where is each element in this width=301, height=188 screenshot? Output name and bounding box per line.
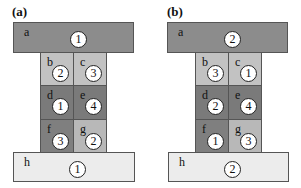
block-letter: c (80, 56, 85, 68)
number-circle: 2 (224, 31, 241, 48)
panel-b: (b) a 2 b 3 c 1 d 2 e 4 f 1 g 3 h 2 (150, 0, 300, 188)
block-letter: b (202, 56, 208, 68)
block-f: f 1 (195, 119, 229, 153)
block-letter: b (47, 56, 53, 68)
block-h: h 2 (168, 152, 289, 182)
number-circle: 4 (240, 98, 257, 115)
number-circle: 3 (52, 133, 69, 150)
block-letter: a (178, 26, 183, 38)
block-b: b 2 (40, 52, 74, 86)
number-circle: 1 (240, 65, 257, 82)
block-letter: f (202, 123, 206, 135)
block-letter: h (179, 156, 185, 168)
block-d: d 2 (195, 85, 229, 120)
number-circle: 4 (85, 98, 102, 115)
block-letter: e (80, 89, 85, 101)
block-a: a 1 (13, 22, 134, 53)
number-circle: 2 (85, 133, 102, 150)
block-letter: d (47, 89, 53, 101)
block-d: d 1 (40, 85, 74, 120)
block-letter: a (24, 26, 29, 38)
block-letter: g (235, 123, 241, 135)
block-a: a 2 (167, 22, 288, 53)
block-letter: c (235, 56, 240, 68)
block-letter: f (47, 123, 51, 135)
block-e: e 4 (228, 85, 262, 120)
number-circle: 1 (70, 31, 87, 48)
number-circle: 1 (207, 133, 224, 150)
number-circle: 2 (207, 98, 224, 115)
block-f: f 3 (40, 119, 74, 153)
block-c: c 1 (228, 52, 262, 86)
panel-a: (a) a 1 b 2 c 3 d 1 e 4 f 3 g 2 h 1 (0, 0, 150, 188)
block-g: g 3 (228, 119, 262, 153)
panel-label: (a) (12, 4, 27, 20)
number-circle: 3 (207, 65, 224, 82)
block-g: g 2 (73, 119, 107, 153)
block-b: b 3 (195, 52, 229, 86)
number-circle: 3 (85, 65, 102, 82)
panel-label: (b) (167, 4, 183, 20)
block-letter: h (24, 156, 30, 168)
number-circle: 3 (240, 133, 257, 150)
number-circle: 1 (52, 98, 69, 115)
block-e: e 4 (73, 85, 107, 120)
number-circle: 2 (52, 65, 69, 82)
number-circle: 1 (69, 161, 86, 178)
block-h: h 1 (13, 152, 135, 182)
block-letter: d (202, 89, 208, 101)
block-c: c 3 (73, 52, 107, 86)
block-letter: e (235, 89, 240, 101)
block-letter: g (80, 123, 86, 135)
number-circle: 2 (224, 161, 241, 178)
